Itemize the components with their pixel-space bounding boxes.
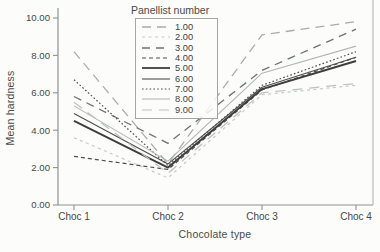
- legend-item-7.00: 7.00: [141, 84, 213, 94]
- y-tick-label: 8.00: [31, 50, 50, 61]
- x-tick-label: Choc 1: [58, 211, 90, 222]
- x-tick-label: Choc 4: [340, 211, 372, 222]
- legend-label: 5.00: [175, 63, 193, 73]
- legend-title: Panellist number: [129, 4, 229, 16]
- legend-line-sample: [141, 106, 171, 114]
- legend-item-1.00: 1.00: [141, 22, 213, 32]
- x-axis-title: Chocolate type: [120, 228, 310, 240]
- legend-item-6.00: 6.00: [141, 73, 213, 83]
- line-chart: 0.002.004.006.008.0010.00Choc 1Choc 2Cho…: [0, 0, 380, 252]
- legend-label: 6.00: [175, 74, 193, 84]
- y-tick-label: 6.00: [31, 87, 50, 98]
- legend-label: 1.00: [175, 22, 193, 32]
- y-tick-label: 0.00: [31, 199, 50, 210]
- legend-item-2.00: 2.00: [141, 32, 213, 42]
- x-tick-label: Choc 3: [246, 211, 278, 222]
- legend-label: 2.00: [175, 32, 193, 42]
- legend-label: 3.00: [175, 43, 193, 53]
- legend-line-sample: [141, 54, 171, 62]
- legend: Panellist number 1.002.003.004.005.006.0…: [129, 4, 229, 119]
- legend-line-sample: [141, 95, 171, 103]
- legend-box: 1.002.003.004.005.006.007.008.009.00: [135, 18, 218, 119]
- legend-item-9.00: 9.00: [141, 104, 213, 114]
- legend-line-sample: [141, 33, 171, 41]
- x-tick-label: Choc 2: [152, 211, 184, 222]
- legend-line-sample: [141, 64, 171, 72]
- legend-label: 8.00: [175, 94, 193, 104]
- y-tick-label: 10.00: [26, 12, 50, 23]
- legend-line-sample: [141, 23, 171, 31]
- y-tick-label: 2.00: [31, 162, 50, 173]
- y-tick-label: 4.00: [31, 125, 50, 136]
- legend-label: 4.00: [175, 53, 193, 63]
- legend-item-3.00: 3.00: [141, 43, 213, 53]
- legend-item-5.00: 5.00: [141, 63, 213, 73]
- legend-label: 7.00: [175, 84, 193, 94]
- legend-item-4.00: 4.00: [141, 53, 213, 63]
- legend-label: 9.00: [175, 105, 193, 115]
- y-axis-title: Mean hardness: [4, 13, 18, 203]
- legend-line-sample: [141, 85, 171, 93]
- legend-line-sample: [141, 44, 171, 52]
- legend-item-8.00: 8.00: [141, 94, 213, 104]
- legend-line-sample: [141, 75, 171, 83]
